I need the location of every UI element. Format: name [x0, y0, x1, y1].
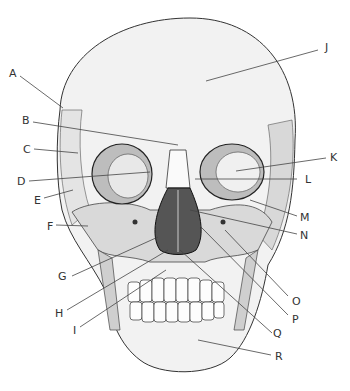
- label-p: P: [292, 314, 299, 326]
- teeth: [128, 278, 224, 322]
- skull-diagram: [0, 0, 350, 391]
- label-q: Q: [273, 328, 282, 340]
- label-g: G: [58, 271, 67, 283]
- label-h: H: [55, 308, 63, 320]
- label-i: I: [73, 325, 76, 337]
- label-m: M: [300, 212, 310, 224]
- nasal-bones: [166, 150, 190, 188]
- label-k: K: [330, 152, 337, 164]
- left-infraorbital-foramen: [133, 220, 138, 225]
- label-n: N: [300, 230, 308, 242]
- label-j: J: [325, 42, 328, 54]
- label-l: L: [305, 174, 311, 186]
- right-orbit-inner: [216, 152, 260, 192]
- label-c: C: [23, 144, 31, 156]
- label-d: D: [17, 176, 25, 188]
- left-orbit-inner: [108, 154, 148, 198]
- label-o: O: [292, 296, 301, 308]
- right-infraorbital-foramen: [221, 220, 226, 225]
- label-b: B: [22, 115, 30, 127]
- label-e: E: [34, 195, 41, 207]
- label-a: A: [9, 68, 17, 80]
- leader-line-a: [20, 76, 63, 108]
- label-f: F: [47, 221, 53, 233]
- label-r: R: [275, 351, 283, 363]
